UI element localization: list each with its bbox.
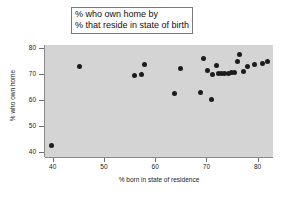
x-tick-label: 60 [143,163,167,171]
data-point [142,62,147,67]
y-tick-label: 50 [14,122,36,129]
y-tick-label: 70 [14,70,36,77]
y-tick-label: 60 [14,96,36,103]
y-tick-mark [39,126,44,127]
x-tick-label: 40 [41,163,65,171]
data-point [252,62,257,67]
data-point [205,68,210,73]
x-axis-line [45,157,273,158]
data-point [265,59,270,64]
data-point [139,72,144,77]
data-point [77,64,82,69]
x-tick-label: 80 [246,163,270,171]
data-point [235,59,240,64]
data-point [214,63,219,68]
data-point [232,70,237,75]
x-tick-mark [155,158,156,162]
y-tick-label: 80 [14,44,36,51]
data-point [178,66,183,71]
data-point [245,64,250,69]
plot-area [45,45,273,157]
data-point [198,90,203,95]
x-tick-label: 70 [194,163,218,171]
x-tick-mark [206,158,207,162]
y-tick-mark [39,74,44,75]
data-point [209,97,214,102]
y-axis-line [44,45,45,157]
data-point [237,52,242,57]
data-point [172,91,177,96]
scatter-chart-figure: % who own home % born in state of reside… [0,0,300,197]
data-point [210,72,215,77]
x-tick-mark [104,158,105,162]
data-point [132,73,137,78]
chart-title-line-1: % who own home by [75,9,189,20]
x-tick-mark [258,158,259,162]
data-point [201,56,206,61]
x-tick-label: 50 [92,163,116,171]
x-axis-title: % born in state of residence [45,176,273,183]
data-point [241,69,246,74]
data-point [49,143,54,148]
x-tick-mark [53,158,54,162]
y-tick-label: 40 [14,148,36,155]
y-tick-mark [39,152,44,153]
y-tick-mark [39,100,44,101]
chart-title-line-2: % that reside in state of birth [75,20,189,31]
chart-title-box: % who own home by % that reside in state… [71,7,193,34]
y-tick-mark [39,48,44,49]
